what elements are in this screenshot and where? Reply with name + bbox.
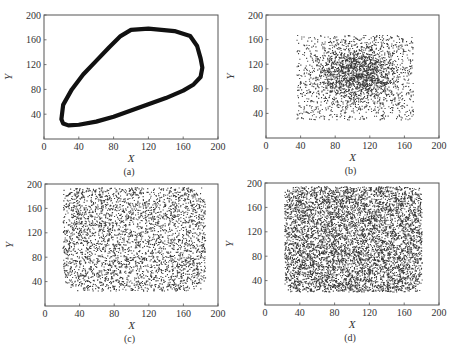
- x-tick-label: 0: [263, 307, 268, 318]
- y-tick-label: 200: [247, 178, 262, 189]
- y-tick-label: 80: [252, 251, 262, 262]
- x-axis-label: X: [348, 151, 357, 163]
- x-tick-label: 80: [330, 307, 340, 318]
- x-tick-label: 0: [43, 308, 48, 319]
- y-tick-label: 200: [26, 10, 41, 21]
- panel-d: 040801201602004080120160200XY(d): [223, 178, 447, 345]
- scatter-points: [63, 187, 207, 292]
- x-tick-label: 160: [176, 308, 191, 319]
- y-tick-label: 120: [247, 226, 262, 237]
- panel-caption: (c): [124, 333, 135, 345]
- y-axis-ticks: 4080120160200: [248, 10, 269, 119]
- y-tick-label: 160: [247, 202, 262, 213]
- figure: 040801201602004080120160200XY(a) 0408012…: [0, 0, 456, 352]
- y-axis-label: Y: [2, 72, 14, 80]
- x-tick-label: 40: [296, 140, 306, 151]
- panel-caption: (d): [344, 332, 356, 344]
- x-tick-label: 0: [42, 141, 47, 152]
- trajectory-loop: [61, 29, 202, 126]
- x-tick-label: 0: [264, 140, 269, 151]
- y-tick-label: 80: [253, 83, 263, 94]
- scatter-points: [284, 186, 423, 293]
- x-tick-label: 120: [141, 141, 156, 152]
- x-tick-label: 80: [109, 308, 119, 319]
- plot-content: [297, 35, 415, 121]
- panel-a: 040801201602004080120160200XY(a): [2, 10, 226, 179]
- x-tick-label: 160: [397, 140, 412, 151]
- y-axis-label: Y: [3, 240, 15, 248]
- y-axis-label: Y: [223, 239, 235, 247]
- y-axis-ticks: 4080120160200: [27, 179, 48, 288]
- panel-caption: (a): [123, 166, 134, 178]
- x-tick-label: 120: [362, 140, 377, 151]
- x-tick-label: 160: [176, 141, 191, 152]
- x-tick-label: 200: [211, 141, 226, 152]
- y-tick-label: 80: [32, 252, 42, 263]
- y-tick-label: 160: [27, 203, 42, 214]
- x-tick-label: 80: [330, 140, 340, 151]
- y-tick-label: 200: [248, 10, 263, 21]
- x-tick-label: 120: [141, 308, 156, 319]
- x-tick-label: 40: [75, 308, 85, 319]
- x-tick-label: 120: [362, 307, 377, 318]
- y-tick-label: 200: [27, 179, 42, 190]
- panel-c: 040801201602004080120160200XY(c): [3, 179, 226, 346]
- y-axis-ticks: 4080120160200: [247, 178, 268, 287]
- scatter-points: [297, 35, 415, 121]
- plot-content: [284, 186, 423, 293]
- plot-content: [63, 187, 207, 292]
- x-tick-label: 80: [109, 141, 119, 152]
- y-axis-ticks: 4080120160200: [26, 10, 47, 120]
- y-tick-label: 80: [31, 84, 41, 95]
- axes-frame: [44, 15, 218, 139]
- y-tick-label: 160: [26, 34, 41, 45]
- x-axis-label: X: [127, 152, 136, 164]
- y-tick-label: 120: [248, 59, 263, 70]
- x-axis-label: X: [348, 318, 357, 330]
- y-tick-label: 40: [31, 109, 41, 120]
- x-tick-label: 200: [211, 308, 226, 319]
- x-tick-label: 200: [432, 140, 447, 151]
- y-tick-label: 160: [248, 34, 263, 45]
- panel-caption: (b): [345, 165, 357, 177]
- y-tick-label: 40: [252, 275, 262, 286]
- y-tick-label: 40: [253, 108, 263, 119]
- x-tick-label: 160: [397, 307, 412, 318]
- x-tick-label: 200: [432, 307, 447, 318]
- x-tick-label: 40: [295, 307, 305, 318]
- y-tick-label: 40: [32, 276, 42, 287]
- y-tick-label: 120: [27, 227, 42, 238]
- plot-content: [61, 29, 202, 126]
- x-axis-label: X: [127, 319, 136, 331]
- x-tick-label: 40: [74, 141, 84, 152]
- y-axis-label: Y: [224, 72, 236, 80]
- panel-b: 040801201602004080120160200XY(b): [224, 10, 447, 178]
- y-tick-label: 120: [26, 59, 41, 70]
